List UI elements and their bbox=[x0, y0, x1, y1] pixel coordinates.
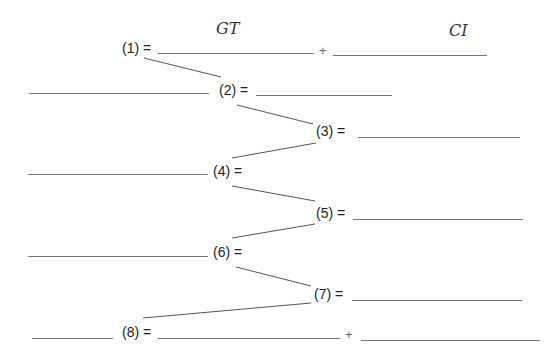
equation-2-right-blank[interactable] bbox=[256, 95, 392, 96]
connector-6-7 bbox=[236, 267, 311, 286]
equation-5-blank[interactable] bbox=[353, 219, 523, 220]
equation-1-gt-blank[interactable] bbox=[158, 53, 314, 54]
connector-4-5 bbox=[232, 186, 315, 201]
equation-3-blank[interactable] bbox=[358, 137, 520, 138]
equation-1-label: (1) = bbox=[122, 40, 151, 56]
equation-8-label: (8) = bbox=[122, 324, 151, 340]
equation-7-label: (7) = bbox=[314, 286, 343, 302]
equation-8-left-blank[interactable] bbox=[32, 338, 113, 339]
equation-2-label: (2) = bbox=[219, 82, 248, 98]
equation-2-left-blank[interactable] bbox=[29, 93, 209, 94]
equation-7-blank[interactable] bbox=[352, 300, 522, 301]
connector-2-3 bbox=[237, 105, 313, 124]
connector-3-4 bbox=[232, 143, 316, 158]
connector-7-8 bbox=[143, 303, 311, 318]
header-gt: GT bbox=[216, 20, 239, 38]
connector-1-2 bbox=[144, 58, 221, 77]
equation-3-label: (3) = bbox=[316, 123, 345, 139]
equation-6-left-blank[interactable] bbox=[28, 256, 208, 257]
equation-8-ci-blank[interactable] bbox=[361, 340, 540, 341]
plus-sign-1: + bbox=[319, 44, 327, 58]
connector-5-6 bbox=[232, 224, 315, 238]
header-ci: CI bbox=[449, 22, 468, 40]
equation-4-label: (4) = bbox=[213, 163, 242, 179]
plus-sign-8: + bbox=[345, 328, 353, 342]
equation-8-gt-blank[interactable] bbox=[158, 338, 340, 339]
equation-6-label: (6) = bbox=[213, 244, 242, 260]
equation-1-ci-blank[interactable] bbox=[333, 55, 487, 56]
equation-5-label: (5) = bbox=[316, 205, 345, 221]
equation-4-left-blank[interactable] bbox=[28, 174, 208, 175]
